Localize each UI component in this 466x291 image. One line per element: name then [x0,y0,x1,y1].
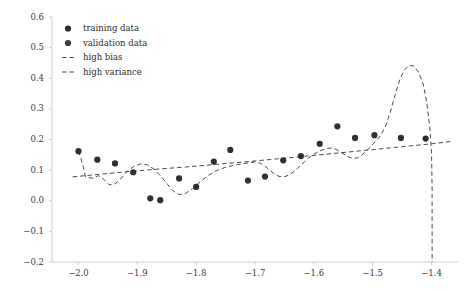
y-axis-tick-label: 0.6 [14,12,44,22]
data-point [176,175,182,181]
legend-item-label: high variance [83,67,142,77]
series-line-high-bias [73,142,451,177]
data-point [193,184,199,190]
data-point [112,160,118,166]
data-point [130,169,136,175]
data-point [227,147,233,153]
data-point [298,153,304,159]
legend-item-label: high bias [83,52,122,62]
data-point [262,173,268,179]
x-axis-tick-label: −2.0 [58,268,98,278]
y-axis-tick-label: 0.5 [14,42,44,52]
legend-marker-circle [65,40,71,46]
x-axis-tick-label: −1.7 [235,268,275,278]
y-axis-tick-label: 0.0 [14,195,44,205]
y-axis-tick-label: 0.2 [14,134,44,144]
legend-item-label: validation data [83,38,147,48]
data-point [280,157,286,163]
data-point [211,158,217,164]
x-axis-tick-label: −1.9 [117,268,157,278]
legend-marker-circle [65,25,71,31]
x-axis-tick-label: −1.6 [294,268,334,278]
legend-item-label: training data [83,23,139,33]
data-point [371,132,377,138]
y-axis-tick-label: 0.4 [14,73,44,83]
x-axis-tick-label: −1.4 [412,268,452,278]
y-axis-tick-label: 0.1 [14,165,44,175]
data-point [317,141,323,147]
data-point [398,135,404,141]
chart-figure: −0.2−0.10.00.10.20.30.40.50.6−2.0−1.9−1.… [0,0,466,291]
data-point [147,195,153,201]
x-axis-tick-label: −1.5 [353,268,393,278]
x-axis-tick-label: −1.8 [176,268,216,278]
y-axis-tick-label: 0.3 [14,103,44,113]
plot-area [0,0,466,291]
series-line-high-variance [78,65,432,262]
data-point [157,197,163,203]
data-point [334,123,340,129]
data-point [423,135,429,141]
y-axis-tick-label: −0.2 [14,257,44,267]
data-point [75,148,81,154]
data-point [94,157,100,163]
y-axis-tick-label: −0.1 [14,226,44,236]
data-point [352,135,358,141]
data-point [245,177,251,183]
